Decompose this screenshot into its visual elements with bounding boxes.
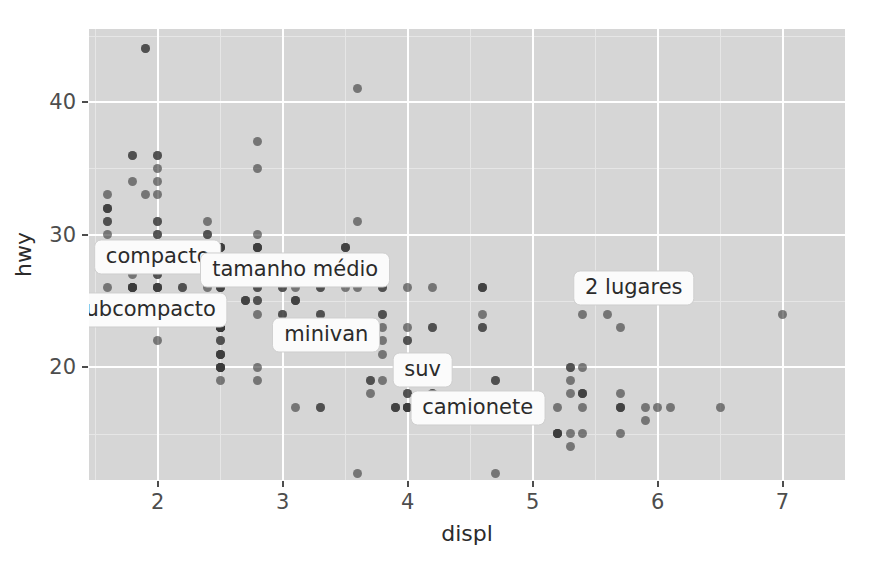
data-point: [553, 403, 562, 412]
data-point: [566, 389, 575, 398]
x-tick-label: 6: [651, 490, 664, 514]
data-point: [366, 376, 375, 385]
data-point: [578, 403, 587, 412]
data-point: [603, 310, 612, 319]
data-point: [578, 389, 587, 398]
y-tick-label: 30: [49, 223, 76, 247]
data-point: [253, 164, 262, 173]
data-point: [341, 243, 350, 252]
data-point: [103, 283, 112, 292]
data-point: [378, 376, 387, 385]
x-axis-title: displ: [89, 521, 845, 546]
data-point: [478, 310, 487, 319]
data-point: [641, 416, 650, 425]
class-label-tamanho-médio: tamanho médio: [200, 253, 390, 288]
gridline-major-horizontal: [89, 366, 845, 368]
data-point: [566, 376, 575, 385]
data-point: [403, 336, 412, 345]
data-point: [566, 363, 575, 372]
x-tick-label: 3: [276, 490, 289, 514]
data-point: [216, 376, 225, 385]
data-point: [578, 310, 587, 319]
gridline-minor-horizontal: [89, 434, 845, 435]
class-label-subcompacto: subcompacto: [89, 293, 228, 328]
data-point: [366, 389, 375, 398]
class-label-2-lugares: 2 lugares: [573, 270, 694, 305]
x-tick-mark: [532, 481, 534, 487]
y-tick-label: 20: [49, 355, 76, 379]
gridline-minor-vertical: [720, 29, 721, 480]
data-point: [216, 363, 225, 372]
gridline-minor-horizontal: [89, 168, 845, 169]
data-point: [553, 429, 562, 438]
data-point: [253, 296, 262, 305]
data-point: [578, 363, 587, 372]
data-point: [153, 151, 162, 160]
data-point: [103, 204, 112, 213]
data-point: [616, 389, 625, 398]
data-point: [128, 283, 137, 292]
data-point: [491, 376, 500, 385]
data-point: [578, 429, 587, 438]
x-tick-label: 2: [151, 490, 164, 514]
x-tick-mark: [782, 481, 784, 487]
data-point: [253, 363, 262, 372]
x-tick-mark: [282, 481, 284, 487]
data-point: [491, 469, 500, 478]
data-point: [153, 230, 162, 239]
data-point: [478, 323, 487, 332]
y-tick-label: 40: [49, 90, 76, 114]
data-point: [103, 190, 112, 199]
data-point: [216, 350, 225, 359]
data-point: [153, 177, 162, 186]
data-point: [378, 350, 387, 359]
gridline-major-vertical: [657, 29, 659, 480]
plot-panel: compactotamanho médiosubcompactominivans…: [89, 29, 845, 480]
data-point: [153, 164, 162, 173]
gridline-minor-horizontal: [89, 36, 845, 37]
data-point: [566, 429, 575, 438]
data-point: [153, 336, 162, 345]
data-point: [253, 243, 262, 252]
data-point: [141, 190, 150, 199]
scatter-plot-chart: compactotamanho médiosubcompactominivans…: [0, 0, 876, 566]
data-point: [153, 190, 162, 199]
gridline-major-horizontal: [89, 101, 845, 103]
data-point: [391, 403, 400, 412]
x-tick-mark: [407, 481, 409, 487]
data-point: [716, 403, 725, 412]
y-axis-title: hwy: [8, 29, 38, 480]
y-tick-mark: [82, 101, 88, 103]
data-point: [653, 403, 662, 412]
data-point: [291, 403, 300, 412]
data-point: [103, 217, 112, 226]
data-point: [353, 84, 362, 93]
data-point: [478, 283, 487, 292]
data-point: [253, 376, 262, 385]
y-tick-mark: [82, 234, 88, 236]
data-point: [666, 403, 675, 412]
data-point: [378, 310, 387, 319]
class-label-minivan: minivan: [272, 318, 380, 353]
data-point: [141, 44, 150, 53]
gridline-major-vertical: [782, 29, 784, 480]
data-point: [641, 403, 650, 412]
data-point: [153, 217, 162, 226]
data-point: [216, 336, 225, 345]
data-point: [103, 230, 112, 239]
gridline-minor-vertical: [595, 29, 596, 480]
data-point: [616, 403, 625, 412]
data-point: [203, 230, 212, 239]
x-tick-label: 4: [401, 490, 414, 514]
data-point: [253, 230, 262, 239]
x-tick-label: 7: [776, 490, 789, 514]
data-point: [253, 137, 262, 146]
data-point: [353, 217, 362, 226]
data-point: [128, 177, 137, 186]
data-point: [428, 323, 437, 332]
class-label-suv: suv: [392, 352, 453, 387]
y-tick-mark: [82, 366, 88, 368]
y-axis-title-text: hwy: [11, 232, 36, 277]
x-tick-mark: [657, 481, 659, 487]
data-point: [178, 283, 187, 292]
